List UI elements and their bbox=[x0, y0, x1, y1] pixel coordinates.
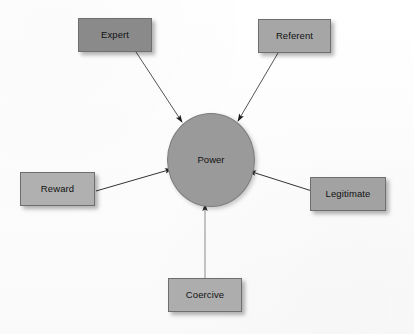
node-expert[interactable]: Expert bbox=[78, 18, 152, 52]
node-reward[interactable]: Reward bbox=[20, 172, 95, 206]
node-coercive[interactable]: Coercive bbox=[168, 278, 242, 312]
power-diagram-canvas: Power Expert Referent Reward Legitimate … bbox=[0, 0, 414, 334]
node-referent-label: Referent bbox=[276, 31, 313, 41]
node-referent[interactable]: Referent bbox=[258, 19, 331, 53]
node-expert-label: Expert bbox=[101, 30, 129, 40]
edge-expert-to-power bbox=[136, 52, 182, 122]
edge-referent-to-power bbox=[238, 53, 278, 121]
node-reward-label: Reward bbox=[41, 184, 74, 194]
node-coercive-label: Coercive bbox=[186, 290, 224, 300]
edge-legitimate-to-power bbox=[249, 171, 312, 191]
node-legitimate-label: Legitimate bbox=[326, 189, 371, 199]
center-node-power[interactable]: Power bbox=[167, 113, 255, 207]
edge-reward-to-power bbox=[96, 169, 172, 191]
node-legitimate[interactable]: Legitimate bbox=[310, 177, 386, 211]
center-node-label: Power bbox=[198, 154, 225, 165]
